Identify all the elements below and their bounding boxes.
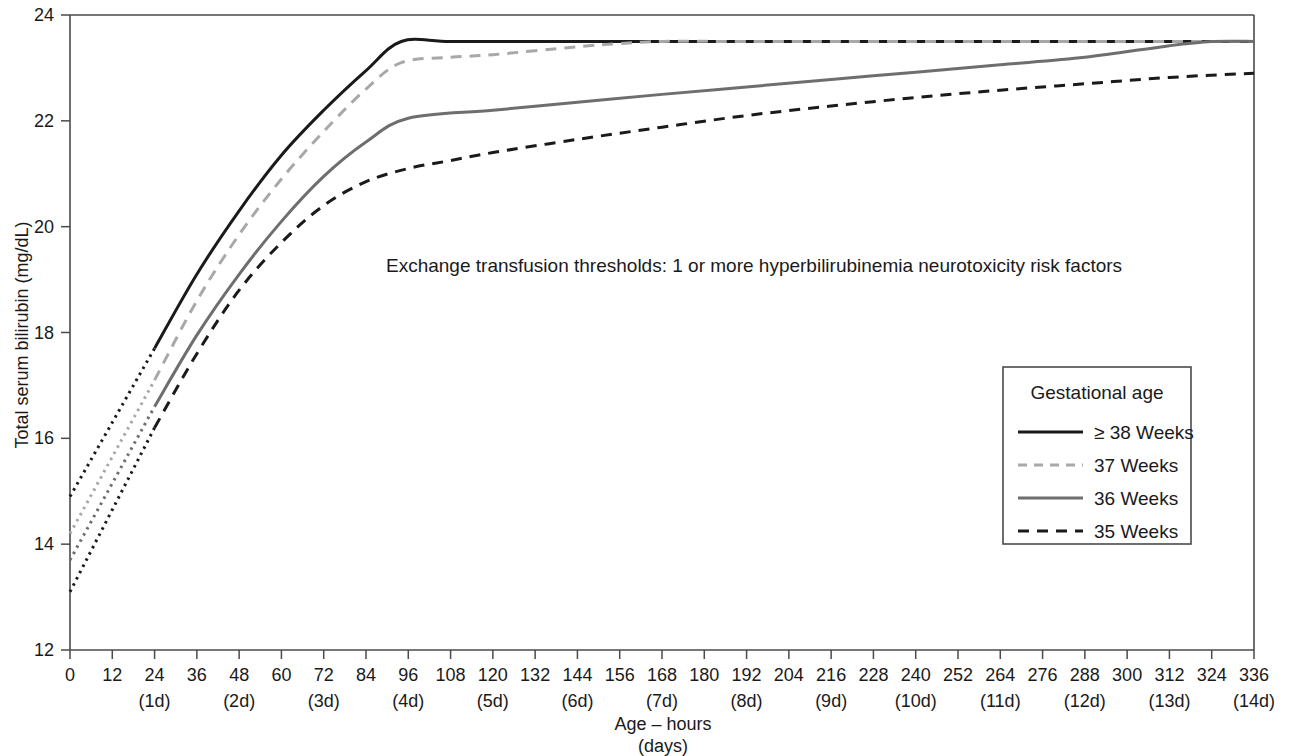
x-tick-label: 336 (1239, 665, 1269, 685)
legend-entry-label: ≥ 38 Weeks (1094, 422, 1194, 443)
y-tick-label: 20 (34, 217, 54, 237)
y-tick-label: 16 (34, 428, 54, 448)
y-tick-label: 24 (34, 5, 54, 25)
x-axis-ticks: 0122436486072849610812013214415616818019… (65, 650, 1275, 711)
x-tick-day-label: (8d) (731, 691, 763, 711)
x-tick-label: 0 (65, 665, 75, 685)
x-tick-label: 12 (102, 665, 122, 685)
x-tick-label: 24 (145, 665, 165, 685)
x-tick-label: 60 (271, 665, 291, 685)
x-tick-label: 288 (1070, 665, 1100, 685)
x-tick-label: 192 (732, 665, 762, 685)
y-tick-label: 12 (34, 640, 54, 660)
x-tick-label: 156 (605, 665, 635, 685)
x-tick-day-label: (2d) (223, 691, 255, 711)
x-tick-label: 48 (229, 665, 249, 685)
series-extrapolated-segment (70, 428, 155, 592)
x-tick-day-label: (11d) (980, 691, 1021, 711)
y-tick-label: 22 (34, 111, 54, 131)
y-axis-ticks: 12141618202224 (34, 5, 70, 660)
x-tick-label: 96 (398, 665, 418, 685)
x-tick-label: 132 (520, 665, 550, 685)
series-extrapolated-segment (70, 407, 155, 560)
x-tick-day-label: (7d) (646, 691, 678, 711)
x-tick-day-label: (10d) (895, 691, 937, 711)
x-tick-day-label: (3d) (308, 691, 340, 711)
plot-frame (70, 15, 1254, 650)
chart-svg: 12141618202224 0122436486072849610812013… (0, 0, 1298, 756)
x-tick-label: 252 (943, 665, 973, 685)
x-axis-title-hours: Age – hours (614, 714, 711, 734)
series-extrapolated-segment (70, 348, 155, 496)
x-tick-label: 36 (187, 665, 207, 685)
x-tick-label: 204 (774, 665, 804, 685)
x-tick-label: 108 (436, 665, 466, 685)
x-tick-day-label: (12d) (1064, 691, 1106, 711)
x-tick-day-label: (9d) (815, 691, 847, 711)
x-tick-day-label: (13d) (1148, 691, 1190, 711)
x-tick-label: 276 (1028, 665, 1058, 685)
x-tick-day-label: (5d) (477, 691, 509, 711)
x-tick-label: 264 (985, 665, 1015, 685)
x-tick-label: 300 (1112, 665, 1142, 685)
x-tick-label: 168 (647, 665, 677, 685)
legend: Gestational age ≥ 38 Weeks37 Weeks36 Wee… (1003, 367, 1194, 544)
x-tick-label: 180 (689, 665, 719, 685)
x-tick-label: 240 (901, 665, 931, 685)
y-tick-label: 18 (34, 323, 54, 343)
x-tick-day-label: (1d) (139, 691, 171, 711)
x-tick-label: 312 (1154, 665, 1184, 685)
y-tick-label: 14 (34, 534, 54, 554)
x-tick-label: 216 (816, 665, 846, 685)
series-line (155, 39, 1254, 348)
x-axis-title-days: (days) (638, 736, 688, 756)
x-tick-label: 120 (478, 665, 508, 685)
x-tick-label: 72 (314, 665, 334, 685)
y-axis-title: Total serum bilirubin (mg/dL) (12, 221, 32, 448)
chart-annotation-text: Exchange transfusion thresholds: 1 or mo… (386, 255, 1122, 276)
x-tick-label: 144 (562, 665, 592, 685)
x-tick-day-label: (6d) (561, 691, 593, 711)
legend-title: Gestational age (1030, 382, 1163, 403)
x-tick-day-label: (4d) (392, 691, 424, 711)
legend-entry-label: 35 Weeks (1094, 521, 1178, 542)
x-tick-label: 84 (356, 665, 376, 685)
legend-entry-label: 36 Weeks (1094, 488, 1178, 509)
x-tick-label: 324 (1197, 665, 1227, 685)
bilirubin-exchange-transfusion-chart: 12141618202224 0122436486072849610812013… (0, 0, 1298, 756)
series-line (155, 41, 1254, 406)
x-tick-day-label: (14d) (1233, 691, 1275, 711)
x-tick-label: 228 (858, 665, 888, 685)
legend-entry-label: 37 Weeks (1094, 455, 1178, 476)
